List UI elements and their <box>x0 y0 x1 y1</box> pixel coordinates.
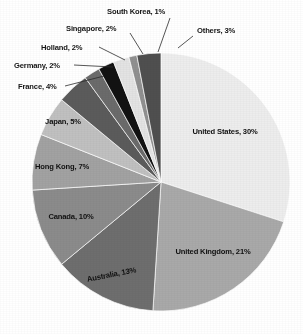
pie-slices <box>32 53 290 311</box>
callout-label-singapore: Singapore, 2% <box>66 24 117 33</box>
leader-line-singapore <box>130 33 143 54</box>
pie-chart-canvas: United States, 30%United Kingdom, 21%Aus… <box>0 0 303 334</box>
callout-label-south-korea: South Korea, 1% <box>107 7 165 16</box>
leader-line-south-korea <box>158 18 170 52</box>
slice-label-united-kingdom: United Kingdom, 21% <box>175 247 251 256</box>
slice-label-united-states: United States, 30% <box>192 127 258 136</box>
callout-label-germany: Germany, 2% <box>14 61 60 70</box>
slice-label-hong-kong: Hong Kong, 7% <box>35 162 90 171</box>
slice-label-canada: Canada, 10% <box>48 212 94 221</box>
callout-label-holland: Holland, 2% <box>41 43 83 52</box>
pie-chart: United States, 30%United Kingdom, 21%Aus… <box>0 0 303 334</box>
callout-label-france: France, 4% <box>18 82 57 91</box>
leader-line-others <box>178 36 193 48</box>
leader-line-holland <box>99 47 125 60</box>
callout-label-others: Others, 3% <box>197 26 236 35</box>
slice-label-japan: Japan, 5% <box>45 117 81 126</box>
